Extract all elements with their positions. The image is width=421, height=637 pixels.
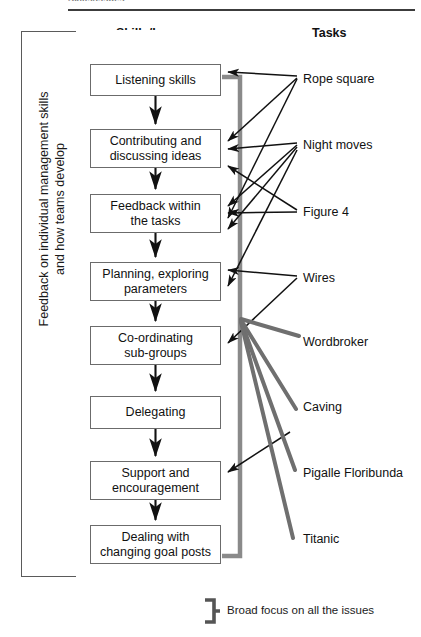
process-box-line: Dealing with	[100, 530, 211, 545]
process-box-line: parameters	[102, 282, 208, 297]
column-header-tasks: Tasks	[312, 26, 347, 40]
top-cropped-caption: Skills/Issues	[68, 0, 125, 1]
top-horizontal-rule	[68, 9, 415, 11]
process-box-dealing-goalposts[interactable]: Dealing with changing goal posts	[90, 525, 221, 564]
process-box-listening-skills[interactable]: Listening skills	[90, 64, 221, 96]
process-box-line: Co-ordinating	[118, 331, 193, 346]
task-label-night-moves[interactable]: Night moves	[303, 138, 372, 152]
legend-bracket-icon	[205, 600, 220, 622]
process-box-line: Delegating	[126, 405, 186, 420]
process-box-contributing-ideas[interactable]: Contributing and discussing ideas	[90, 129, 221, 168]
process-box-line: Listening skills	[115, 73, 196, 88]
process-box-line: Planning, exploring	[102, 267, 208, 282]
task-label-wires[interactable]: Wires	[303, 271, 335, 285]
feedback-frame-label: Feedback on individual management skills…	[36, 9, 68, 409]
legend-broad-focus-label: Broad focus on all the issues	[227, 604, 374, 616]
process-box-line: Support and	[112, 466, 199, 481]
task-label-rope-square[interactable]: Rope square	[303, 72, 375, 86]
task-label-titanic[interactable]: Titanic	[303, 532, 339, 546]
task-label-wordbroker[interactable]: Wordbroker	[303, 335, 368, 349]
task-label-caving[interactable]: Caving	[303, 400, 342, 414]
diagram-page: Skills/Issues Skills/Issues Tasks Feedba…	[0, 0, 421, 637]
task-label-figure-4[interactable]: Figure 4	[303, 205, 349, 219]
process-box-line: encouragement	[112, 481, 199, 496]
process-box-line: discussing ideas	[110, 149, 202, 164]
process-box-line: the tasks	[110, 214, 200, 229]
process-box-delegating[interactable]: Delegating	[90, 396, 221, 429]
process-box-planning-parameters[interactable]: Planning, exploring parameters	[90, 262, 221, 301]
process-box-line: Feedback within	[110, 199, 200, 214]
task-label-pigalle-floribunda[interactable]: Pigalle Floribunda	[303, 466, 403, 480]
feedback-label-line-1: Feedback on individual management skills	[36, 9, 52, 409]
process-box-line: Contributing and	[110, 134, 202, 149]
process-box-support-encouragement[interactable]: Support and encouragement	[90, 461, 221, 500]
process-box-line: changing goal posts	[100, 545, 211, 560]
process-box-coordinating-subgroups[interactable]: Co-ordinating sub-groups	[90, 326, 221, 365]
feedback-label-line-2: and how teams develop	[52, 9, 68, 409]
process-box-line: sub-groups	[118, 346, 193, 361]
process-box-feedback-tasks[interactable]: Feedback within the tasks	[90, 194, 221, 233]
